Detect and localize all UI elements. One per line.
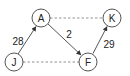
svg-text:A: A bbox=[38, 13, 45, 24]
node-f: F bbox=[79, 53, 97, 71]
node-j: J bbox=[5, 53, 23, 71]
svg-text:K: K bbox=[109, 13, 116, 24]
svg-text:F: F bbox=[85, 57, 91, 68]
edge-weight-a-f: 2 bbox=[66, 29, 72, 40]
edge-weight-f-k: 29 bbox=[103, 39, 115, 50]
node-k: K bbox=[103, 9, 121, 27]
edge-a-f bbox=[48, 24, 81, 55]
graph-diagram: 28 2 29 A K J F bbox=[0, 0, 130, 76]
node-a: A bbox=[32, 9, 50, 27]
edge-weight-j-a: 28 bbox=[12, 36, 24, 47]
svg-text:J: J bbox=[12, 57, 17, 68]
